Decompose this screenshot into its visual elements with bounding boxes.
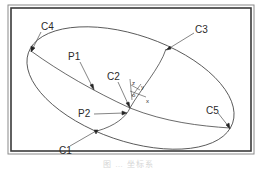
figure-caption: 图 … 坐标系 bbox=[0, 158, 257, 169]
leader-c1 bbox=[70, 131, 96, 146]
leader-p1 bbox=[80, 62, 93, 88]
axis-y-label: y bbox=[141, 84, 144, 90]
curve-c1-c3 bbox=[97, 49, 166, 131]
leader-c3 bbox=[168, 33, 194, 49]
curve-c4-c5 bbox=[31, 51, 230, 128]
label-p2: P2 bbox=[78, 108, 91, 119]
axis-x-label: x bbox=[146, 98, 149, 104]
arrowhead-c3 bbox=[166, 46, 171, 50]
label-c1: C1 bbox=[59, 145, 72, 156]
leader-p2 bbox=[94, 113, 124, 114]
label-p1: P1 bbox=[68, 51, 81, 62]
label-c5: C5 bbox=[206, 105, 219, 116]
arrowhead-c4 bbox=[31, 46, 35, 52]
label-c4: C4 bbox=[41, 21, 54, 32]
label-c2: C2 bbox=[107, 71, 120, 82]
diagram-canvas: z y x o C4 C3 P1 C2 P2 C5 C1 bbox=[0, 0, 257, 172]
label-c3: C3 bbox=[195, 24, 208, 35]
axis-z-label: z bbox=[132, 80, 135, 86]
